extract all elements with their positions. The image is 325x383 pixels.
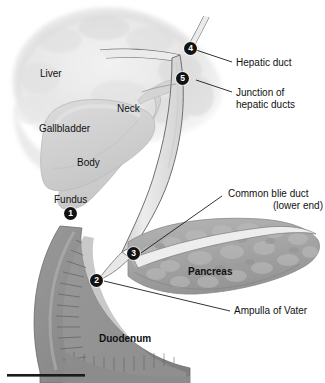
label-pancreas: Pancreas xyxy=(188,266,232,278)
label-gallbladder: Gallbladder xyxy=(39,123,90,135)
callout-cbd-line2: (lower end) xyxy=(228,200,323,212)
callout-ampulla: Ampulla of Vater xyxy=(234,305,307,317)
label-neck: Neck xyxy=(117,103,140,115)
callout-hepatic-duct: Hepatic duct xyxy=(236,57,292,69)
marker-2[interactable]: 2 xyxy=(90,274,103,287)
marker-5[interactable]: 5 xyxy=(176,72,189,85)
label-fundus: Fundus xyxy=(54,194,87,206)
pancreas-shape xyxy=(128,218,319,294)
callout-cbd-line1: Common blie duct xyxy=(228,188,323,200)
marker-4[interactable]: 4 xyxy=(184,42,197,55)
callout-junction-line1: Junction of xyxy=(236,87,295,99)
marker-3[interactable]: 3 xyxy=(127,247,140,260)
callout-common-bile-duct: Common blie duct (lower end) xyxy=(228,188,323,211)
callout-junction-line2: hepatic ducts xyxy=(236,99,295,111)
marker-1[interactable]: 1 xyxy=(64,207,77,220)
scale-bar xyxy=(7,374,85,377)
callout-junction: Junction of hepatic ducts xyxy=(236,87,295,110)
label-liver: Liver xyxy=(40,68,62,80)
label-duodenum: Duodenum xyxy=(99,333,151,345)
label-body: Body xyxy=(77,157,100,169)
anatomy-figure: Liver Gallbladder Neck Body Fundus Pancr… xyxy=(0,0,325,383)
